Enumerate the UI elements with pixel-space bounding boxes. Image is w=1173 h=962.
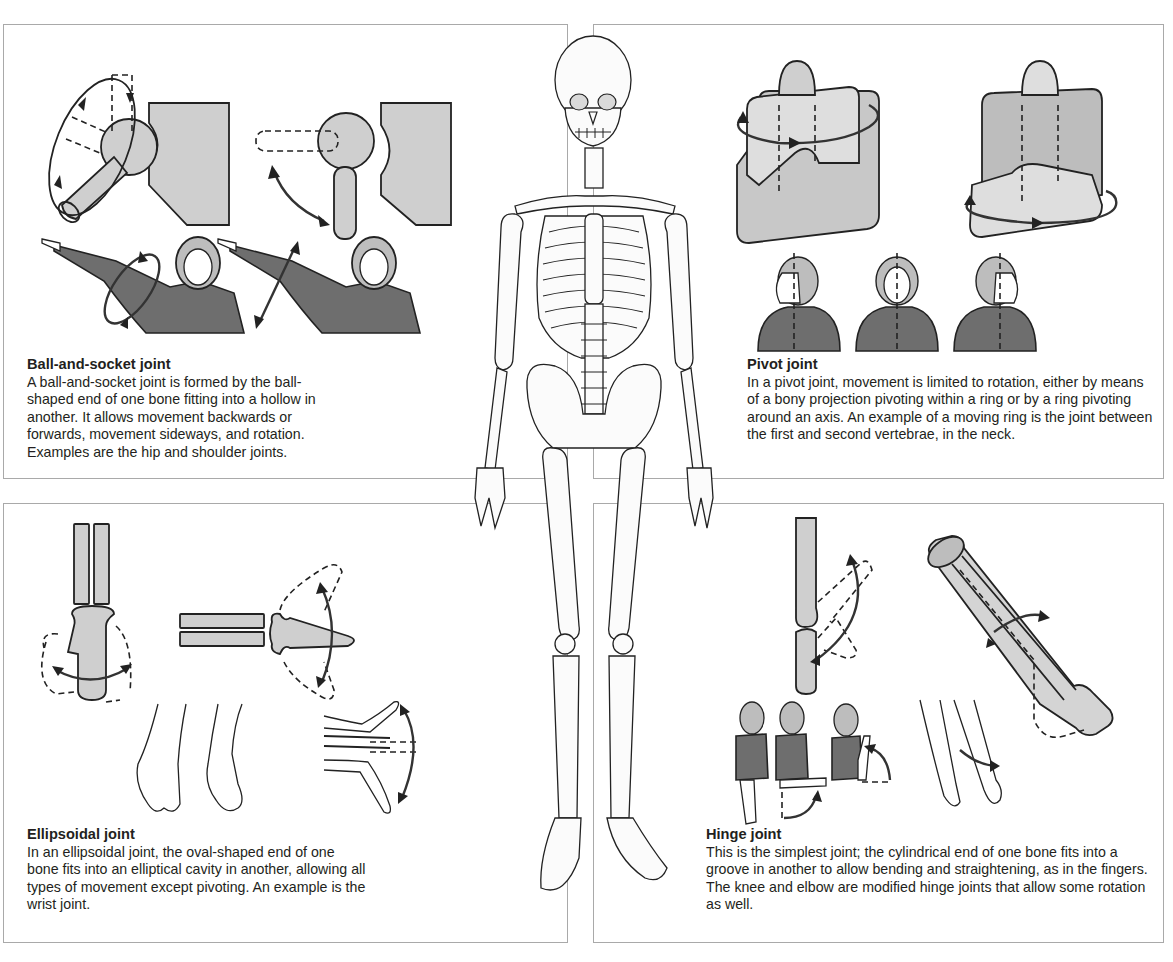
arrow-head-icon: [268, 165, 280, 179]
ball-socket-swing-diagram: [236, 35, 456, 235]
arrow-head-icon: [54, 175, 62, 189]
panel-title: Hinge joint: [706, 826, 1156, 844]
pivot-ring-block: [942, 45, 1142, 245]
hinge-bone-diagram: [784, 518, 894, 678]
panel-description: In a pivot joint, movement is limited to…: [747, 374, 1157, 444]
panel-description: In an ellipsoidal joint, the oval-shaped…: [27, 844, 367, 914]
head-front-figure: [852, 253, 942, 353]
panel-title: Pivot joint: [747, 356, 1157, 374]
arrow-head-icon: [846, 554, 858, 566]
hands-side-to-side: [134, 704, 274, 824]
wrist-flex-extend: [320, 698, 440, 828]
caption-ball-and-socket: Ball-and-socket joint A ball-and-socket …: [27, 356, 347, 462]
head-turn-right-figure: [950, 253, 1040, 353]
arrow-head-icon: [1038, 610, 1050, 622]
arm-swing-figure: [210, 221, 450, 341]
ball-socket-rotation-diagram: [24, 35, 244, 235]
arrow-head-icon: [138, 251, 148, 263]
caption-hinge: Hinge joint This is the simplest joint; …: [706, 826, 1156, 914]
panel-title: Ellipsoidal joint: [27, 826, 367, 844]
arrow-head-icon: [990, 760, 1000, 772]
arrow-head-icon: [52, 666, 64, 676]
arrow-head-icon: [812, 790, 822, 802]
ellipsoid-side-diagram: [174, 552, 394, 702]
ellipsoid-front-diagram: [34, 522, 164, 722]
elbow-bend-figures: [730, 700, 930, 830]
forearm-rotation-arms: [914, 700, 1024, 820]
human-skeleton-illustration: [455, 28, 715, 948]
arrow-head-icon: [316, 582, 328, 594]
caption-pivot: Pivot joint In a pivot joint, movement i…: [747, 356, 1157, 444]
pivot-projection-block: [719, 45, 899, 225]
panel-description: A ball-and-socket joint is formed by the…: [27, 374, 347, 462]
head-turn-left-figure: [754, 253, 844, 353]
panel-description: This is the simplest joint; the cylindri…: [706, 844, 1156, 914]
caption-ellipsoidal: Ellipsoidal joint In an ellipsoidal join…: [27, 826, 367, 914]
panel-title: Ball-and-socket joint: [27, 356, 347, 374]
